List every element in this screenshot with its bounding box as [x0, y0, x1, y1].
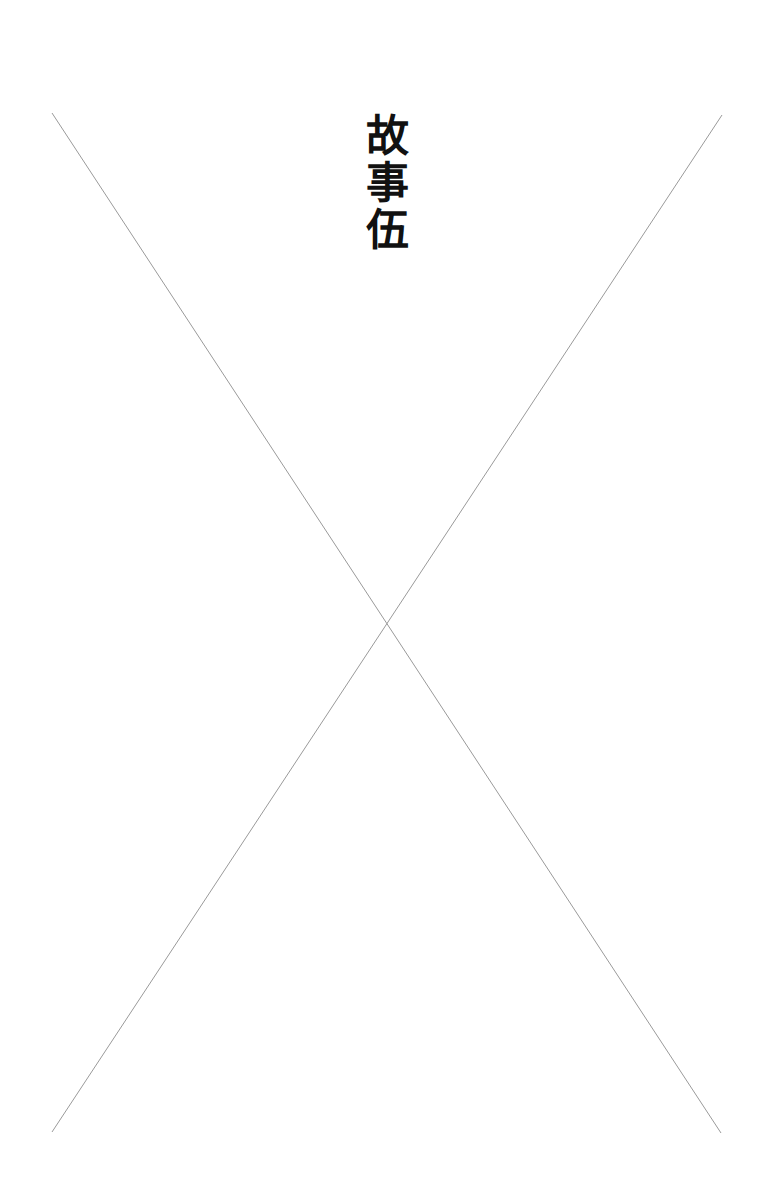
page-title: 故 事 伍	[362, 113, 412, 254]
diagonal-line-top-right-to-bottom-left	[52, 115, 722, 1132]
title-char-2: 事	[366, 160, 409, 207]
title-char-1: 故	[366, 113, 409, 160]
title-char-3: 伍	[366, 207, 409, 254]
page-canvas: 故 事 伍	[0, 0, 771, 1195]
